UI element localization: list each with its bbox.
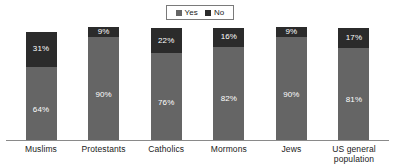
x-axis-labels: MuslimsProtestantsCatholicsMormonsJewsUS…	[12, 144, 383, 164]
bar-segment-yes[interactable]: 64%	[26, 67, 57, 140]
bar-segment-no[interactable]: 9%	[88, 27, 119, 37]
stacked-bar-chart: Yes No 31%64%9%90%22%76%16%82%9%90%17%81…	[0, 0, 393, 166]
bar-segment-yes-label: 64%	[33, 106, 49, 114]
x-axis-label: Catholics	[137, 144, 195, 164]
bar-segment-yes[interactable]: 90%	[88, 37, 119, 140]
legend-item-yes: Yes	[176, 9, 198, 17]
bar-segment-no[interactable]: 9%	[276, 27, 307, 37]
bar-slot: 31%64%	[12, 26, 70, 140]
legend-label-yes: Yes	[185, 9, 198, 17]
bar-segment-no-label: 16%	[221, 33, 237, 41]
plot-area: 31%64%9%90%22%76%16%82%9%90%17%81%	[0, 26, 393, 140]
x-axis-label: Jews	[262, 144, 320, 164]
bar-segment-yes[interactable]: 82%	[213, 47, 244, 140]
bar-segment-no-label: 31%	[33, 45, 49, 53]
legend-label-no: No	[214, 9, 224, 17]
legend-item-no: No	[205, 9, 224, 17]
legend-swatch-no-icon	[205, 10, 211, 16]
legend-swatch-yes-icon	[176, 10, 182, 16]
bar-segment-yes-label: 76%	[158, 99, 174, 107]
stacked-bar[interactable]: 31%64%	[26, 32, 57, 140]
bar-segment-no-label: 9%	[98, 28, 110, 36]
stacked-bar[interactable]: 9%90%	[276, 27, 307, 140]
x-axis-label: Protestants	[75, 144, 133, 164]
stacked-bar[interactable]: 17%81%	[338, 28, 369, 140]
bar-slot: 9%90%	[75, 26, 133, 140]
bar-slot: 9%90%	[262, 26, 320, 140]
x-axis-line	[6, 140, 389, 141]
stacked-bar[interactable]: 9%90%	[88, 27, 119, 140]
bar-segment-yes[interactable]: 76%	[151, 53, 182, 140]
bar-slot: 22%76%	[137, 26, 195, 140]
bar-segment-no[interactable]: 22%	[151, 28, 182, 53]
x-axis-label: Muslims	[12, 144, 70, 164]
bar-segment-no-label: 22%	[158, 37, 174, 45]
bar-segment-no[interactable]: 17%	[338, 28, 369, 47]
bar-segment-yes-label: 90%	[283, 91, 299, 99]
bar-segment-yes[interactable]: 81%	[338, 48, 369, 140]
x-axis-label: US generalpopulation	[325, 144, 383, 164]
stacked-bar[interactable]: 22%76%	[151, 28, 182, 140]
bar-segment-yes-label: 90%	[95, 91, 111, 99]
chart-legend: Yes No	[166, 5, 234, 20]
bar-segment-yes-label: 82%	[221, 95, 237, 103]
bar-segment-no-label: 9%	[285, 28, 297, 36]
bar-slot: 16%82%	[200, 26, 258, 140]
bar-group: 31%64%9%90%22%76%16%82%9%90%17%81%	[12, 26, 383, 140]
bar-segment-no[interactable]: 31%	[26, 32, 57, 67]
bar-segment-yes[interactable]: 90%	[276, 37, 307, 140]
stacked-bar[interactable]: 16%82%	[213, 28, 244, 140]
x-axis-label: Mormons	[200, 144, 258, 164]
bar-segment-no-label: 17%	[346, 34, 362, 42]
bar-slot: 17%81%	[325, 26, 383, 140]
bar-segment-no[interactable]: 16%	[213, 28, 244, 46]
bar-segment-yes-label: 81%	[346, 96, 362, 104]
